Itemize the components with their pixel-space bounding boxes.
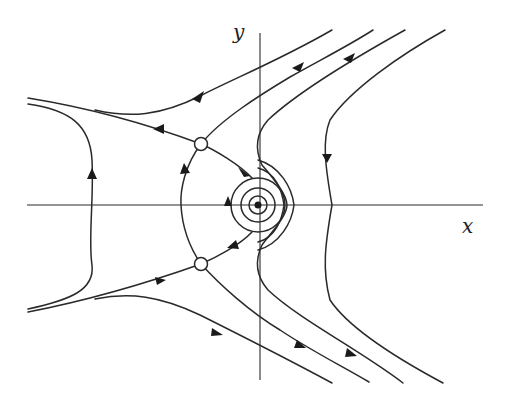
orbit-upper-incoming (95, 30, 332, 114)
arrow-far-left-up (87, 168, 97, 179)
arrow-lower-outgoing (211, 328, 223, 336)
orbit-saddle-loop (181, 144, 201, 264)
center-point (255, 202, 262, 209)
arrow-upper-left (153, 124, 164, 134)
x-axis-label: x (462, 214, 473, 238)
orbit-lower-saddle-down (201, 264, 369, 382)
arrow-upper-incoming (192, 91, 204, 103)
saddle-point-lower (195, 258, 208, 271)
orbit-upper-saddle-up (201, 30, 373, 144)
orbit-right-far (325, 30, 445, 383)
arrow-lower-right-2 (345, 348, 357, 357)
arrow-upper-right-2 (343, 53, 355, 63)
arrow-lower-saddle-left (227, 240, 239, 249)
y-axis-label: y (233, 20, 244, 44)
orbit-lower-saddle-right (201, 232, 252, 264)
saddle-point-upper (195, 138, 208, 151)
phase-portrait (0, 0, 506, 408)
orbit-far-left (28, 104, 92, 309)
orbit-lower-outgoing (95, 296, 332, 383)
arrow-saddle-right (238, 167, 250, 177)
arrow-right-down (322, 154, 332, 163)
orbit-upper-left-separatrix (28, 98, 201, 144)
arrow-lower-right-1 (294, 340, 306, 348)
